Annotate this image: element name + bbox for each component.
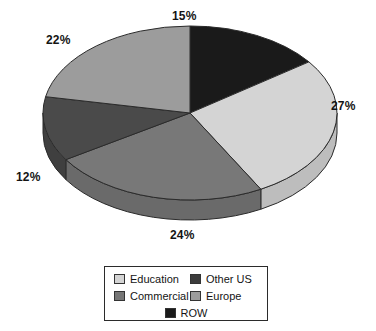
legend-swatch-icon — [165, 308, 176, 318]
legend-item-commercial: Commercial — [105, 291, 190, 302]
legend-row: ROW — [105, 305, 267, 321]
legend-label: ROW — [181, 308, 208, 319]
chart-legend: Education Other US Commercial Europe ROW — [104, 266, 268, 321]
data-label-other-us: 12% — [16, 171, 41, 183]
data-label-europe: 22% — [46, 34, 71, 46]
pie-top-face — [43, 26, 337, 200]
legend-row: Commercial Europe — [105, 288, 267, 304]
legend-swatch-icon — [190, 274, 201, 284]
data-label-commercial: 24% — [170, 229, 195, 241]
legend-item-other-us: Other US — [190, 274, 267, 285]
legend-label: Commercial — [130, 291, 189, 302]
data-label-row: 15% — [172, 10, 197, 22]
legend-swatch-icon — [114, 291, 125, 301]
legend-item-europe: Europe — [190, 291, 267, 302]
legend-row: Education Other US — [105, 271, 267, 287]
legend-label: Other US — [206, 274, 252, 285]
legend-item-education: Education — [105, 274, 190, 285]
data-label-education: 27% — [331, 100, 356, 112]
pie-chart: 15% 27% 24% 12% 22% Education Other US C… — [0, 0, 376, 331]
legend-label: Europe — [206, 291, 241, 302]
legend-swatch-icon — [114, 274, 125, 284]
legend-label: Education — [130, 274, 179, 285]
legend-item-row: ROW — [165, 308, 208, 319]
legend-swatch-icon — [190, 291, 201, 301]
